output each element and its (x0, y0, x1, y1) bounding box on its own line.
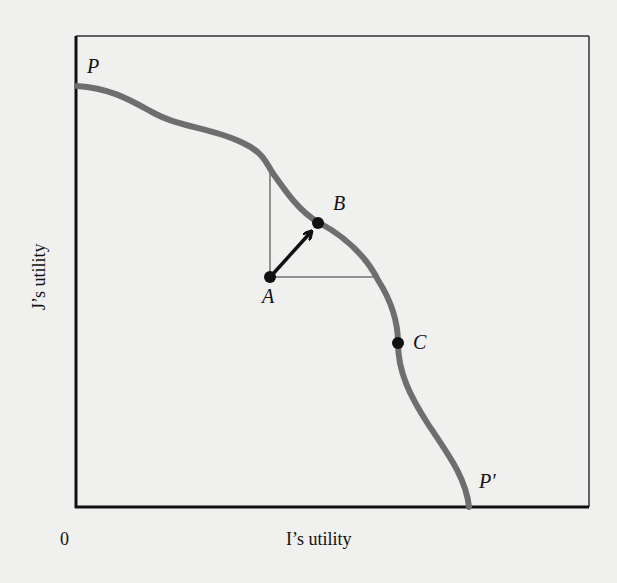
x-axis-label: I’s utility (286, 529, 352, 549)
label-c: C (413, 331, 427, 353)
improvement-arrow (272, 233, 310, 275)
label-a: A (260, 285, 275, 307)
origin-label: 0 (60, 529, 69, 549)
utility-possibility-diagram: P P′ A B C 0 I’s utility J’s utility (0, 0, 617, 583)
point-a (264, 271, 276, 283)
point-c (392, 337, 404, 349)
label-b: B (333, 192, 345, 214)
y-axis-label: J’s utility (29, 243, 49, 310)
label-p: P (86, 55, 99, 77)
label-p-prime: P′ (478, 470, 496, 492)
point-b (312, 217, 324, 229)
